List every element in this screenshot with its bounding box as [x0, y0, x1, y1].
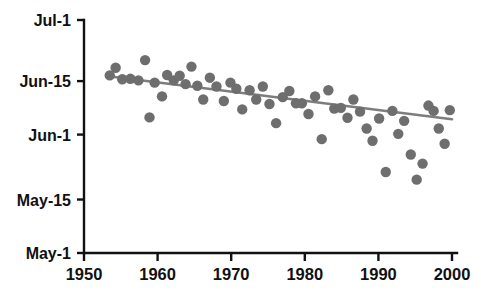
axes	[77, 20, 457, 261]
data-point	[258, 81, 268, 91]
x-tick-label-1: 1960	[139, 265, 176, 283]
data-point	[361, 123, 371, 133]
data-point	[445, 105, 455, 115]
data-point	[297, 98, 307, 108]
data-point	[411, 174, 421, 184]
data-point	[140, 55, 150, 65]
chart-figure: Jul-1Jun-15Jun-1May-15May-1 195019601970…	[0, 0, 481, 300]
data-point	[144, 112, 154, 122]
x-tick-label-2: 1970	[213, 265, 250, 283]
caption-ghost	[14, 292, 474, 300]
data-point	[198, 94, 208, 104]
data-point	[110, 63, 120, 73]
data-point	[387, 106, 397, 116]
data-point	[303, 109, 313, 119]
data-point	[381, 167, 391, 177]
data-point	[374, 113, 384, 123]
data-point	[264, 99, 274, 109]
x-tick-label-3: 1980	[286, 265, 323, 283]
data-point	[393, 129, 403, 139]
data-point	[428, 106, 438, 116]
data-point	[251, 94, 261, 104]
data-point	[434, 123, 444, 133]
data-point	[231, 84, 241, 94]
data-point	[284, 86, 294, 96]
data-point	[367, 136, 377, 146]
x-tick-label-4: 1990	[360, 265, 397, 283]
data-point	[417, 158, 427, 168]
data-point	[310, 91, 320, 101]
y-tick-label-1: Jun-15	[19, 73, 71, 90]
data-point	[186, 61, 196, 71]
data-point	[355, 106, 365, 116]
y-tick-label-2: Jun-1	[28, 127, 71, 144]
y-axis-tick-labels: Jul-1Jun-15Jun-1May-15May-1	[17, 12, 71, 262]
data-point	[149, 77, 159, 87]
scatter-plot: Jul-1Jun-15Jun-1May-15May-1 195019601970…	[0, 0, 481, 300]
data-point	[219, 96, 229, 106]
y-tick-label-4: May-1	[26, 245, 71, 262]
data-point	[439, 139, 449, 149]
data-point	[133, 75, 143, 85]
data-points-group	[105, 55, 455, 185]
data-point	[342, 113, 352, 123]
data-point	[406, 149, 416, 159]
x-tick-label-0: 1950	[66, 265, 103, 283]
data-point	[317, 134, 327, 144]
data-point	[336, 103, 346, 113]
data-point	[271, 118, 281, 128]
data-point	[399, 116, 409, 126]
data-point	[244, 85, 254, 95]
data-point	[237, 104, 247, 114]
y-tick-label-0: Jul-1	[34, 12, 71, 29]
data-point	[157, 91, 167, 101]
data-point	[205, 72, 215, 82]
data-point	[192, 80, 202, 90]
data-point	[348, 94, 358, 104]
data-point	[323, 85, 333, 95]
x-axis-tick-labels: 195019601970198019902000	[66, 265, 471, 283]
x-tick-label-5: 2000	[434, 265, 471, 283]
data-point	[180, 79, 190, 89]
data-point	[211, 81, 221, 91]
y-tick-label-3: May-15	[17, 192, 71, 209]
data-point	[174, 71, 184, 81]
